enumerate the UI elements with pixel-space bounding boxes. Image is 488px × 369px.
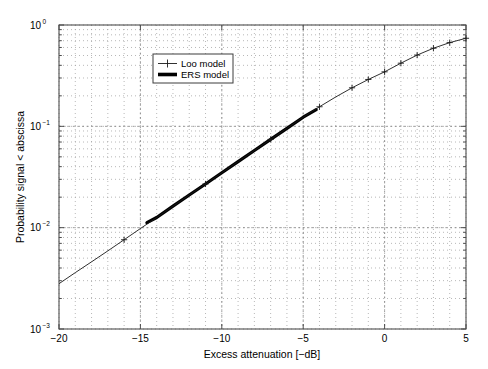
y-tick-exponent: −1 — [43, 119, 51, 126]
y-axis-label: Probability signal < abscissa — [14, 111, 26, 243]
legend[interactable]: Loo model ERS model — [153, 54, 233, 83]
y-tick-label: 10 — [30, 121, 42, 132]
chart-svg: −20−15−10−505 10010−110−210−3 Excess att… — [0, 0, 488, 369]
y-tick-exponent: −3 — [43, 322, 51, 329]
x-axis-label: Excess attenuation [−dB] — [204, 348, 321, 360]
y-tick-exponent: 0 — [43, 18, 47, 25]
chart-figure: −20−15−10−505 10010−110−210−3 Excess att… — [0, 0, 488, 369]
y-tick-label: 10 — [30, 324, 42, 335]
x-tick-label: −5 — [297, 333, 309, 344]
legend-label-ers-model: ERS model — [181, 69, 229, 80]
x-tick-label: −10 — [213, 333, 230, 344]
x-tick-label: −20 — [51, 333, 68, 344]
y-tick-label: 10 — [30, 20, 42, 31]
legend-label-loo-model: Loo model — [181, 58, 225, 69]
x-tick-label: 0 — [382, 333, 388, 344]
x-tick-label: 5 — [463, 333, 469, 344]
y-tick-exponent: −2 — [43, 220, 51, 227]
x-tick-label: −15 — [132, 333, 149, 344]
y-tick-label: 10 — [30, 222, 42, 233]
